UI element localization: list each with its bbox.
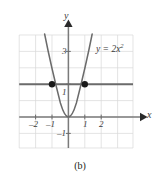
- curve-equation-exponent: 2: [120, 42, 123, 49]
- x-axis-label: x: [147, 110, 151, 120]
- x-tick-label--2: –2: [29, 120, 38, 129]
- curve-equation-base: y = 2x: [96, 44, 120, 54]
- x-tick-label-2: 2: [99, 120, 104, 129]
- y-tick-label--1: –1: [57, 129, 66, 138]
- x-tick-label--1: –1: [46, 120, 55, 129]
- graph-figure: –2 –1 1 2 3 1 –1 x y y = 2x2 (b): [0, 0, 160, 181]
- y-tick-label-1: 1: [62, 88, 67, 97]
- y-axis-label: y: [64, 11, 68, 21]
- intersection-point-right: [82, 81, 88, 87]
- coordinate-plane: [0, 0, 160, 181]
- x-tick-label-1: 1: [83, 120, 88, 129]
- figure-caption: (b): [0, 160, 160, 171]
- y-tick-label-3: 3: [62, 47, 67, 56]
- intersection-point-left: [49, 81, 55, 87]
- curve-equation-label: y = 2x2: [96, 43, 124, 55]
